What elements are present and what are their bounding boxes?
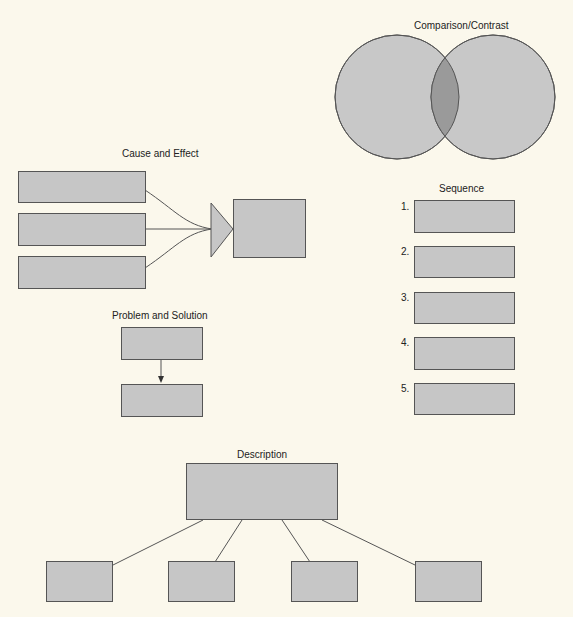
cause-box-3 [18,256,146,289]
step-number-3: 3. [401,292,409,303]
sequence-box-3 [414,292,515,324]
description-title: Description [237,449,287,460]
sequence-box-5 [414,383,515,415]
step-number-1: 1. [401,201,409,212]
step-number-2: 2. [401,246,409,257]
arrow-down-icon [158,376,164,383]
solution-box [121,384,203,417]
cause-box-2 [18,213,146,246]
cause-box-1 [18,171,146,203]
cause-effect-title: Cause and Effect [122,148,199,159]
sequence-box-1 [414,200,515,233]
description-detail-box-1 [46,561,113,602]
sequence-box-4 [414,337,515,370]
description-main-box [186,463,338,520]
description-detail-box-3 [291,561,358,602]
funnel-arrow-icon [211,203,233,257]
problem-box [121,327,203,360]
comparison-title: Comparison/Contrast [414,20,508,31]
step-number-4: 4. [401,337,409,348]
step-number-5: 5. [401,383,409,394]
effect-box [233,199,306,258]
sequence-box-2 [414,246,515,278]
description-detail-box-2 [168,561,235,602]
sequence-title: Sequence [439,183,484,194]
problem-solution-title: Problem and Solution [112,310,208,321]
description-detail-box-4 [415,561,482,602]
